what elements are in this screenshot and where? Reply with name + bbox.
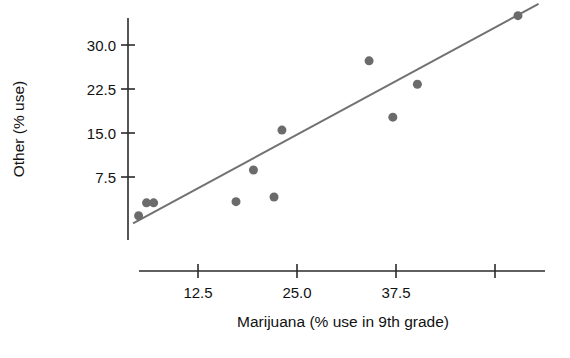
y-tick-label-0: 30.0 xyxy=(87,37,116,54)
x-tick-label-1: 25.0 xyxy=(282,284,311,301)
regression-line xyxy=(133,4,539,223)
data-point-0-6 xyxy=(277,126,286,135)
data-point-0-10 xyxy=(513,11,522,20)
data-point-0-7 xyxy=(365,56,374,65)
y-tick-label-3: 7.5 xyxy=(95,169,116,186)
axes xyxy=(121,18,545,278)
y-axis-title: Other (% use) xyxy=(10,81,28,177)
regression-line-segment xyxy=(133,4,539,223)
data-point-0-9 xyxy=(413,80,422,89)
y-tick-label-1: 22.5 xyxy=(87,81,116,98)
plot-canvas xyxy=(0,0,570,358)
data-point-0-2 xyxy=(149,198,158,207)
data-point-0-5 xyxy=(270,192,279,201)
x-tick-label-2: 37.5 xyxy=(381,284,410,301)
data-point-0-0 xyxy=(134,211,143,220)
x-tick-label-0: 12.5 xyxy=(183,284,212,301)
data-point-0-4 xyxy=(249,165,258,174)
y-tick-label-2: 15.0 xyxy=(87,125,116,142)
data-point-0-8 xyxy=(388,113,397,122)
data-points xyxy=(134,11,522,220)
data-point-0-3 xyxy=(232,197,241,206)
x-axis-title: Marijuana (% use in 9th grade) xyxy=(237,313,449,331)
scatter-plot-figure: Other (% use) Marijuana (% use in 9th gr… xyxy=(0,0,570,358)
